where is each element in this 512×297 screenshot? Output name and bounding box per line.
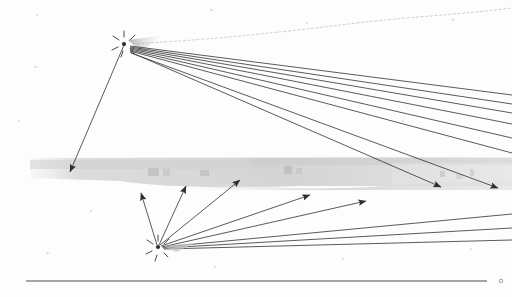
scanned-page	[0, 0, 512, 297]
diagram-canvas	[0, 0, 512, 297]
paper-background	[0, 0, 512, 297]
